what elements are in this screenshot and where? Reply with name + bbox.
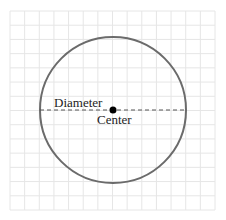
diameter-label: Diameter xyxy=(54,95,103,110)
circle-diagram: Diameter Center xyxy=(0,0,226,220)
center-label: Center xyxy=(97,112,132,127)
